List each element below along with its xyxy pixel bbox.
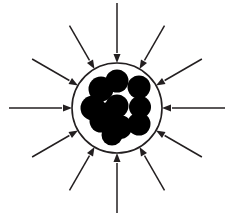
figure-canvas: Inward radial compression of a particle …	[0, 0, 227, 214]
particle-bottom-center	[102, 125, 123, 146]
particle-top-right	[128, 76, 151, 99]
particle-inner-fill	[98, 102, 118, 122]
particle-lower-right	[128, 113, 151, 136]
compression-diagram	[0, 0, 227, 214]
